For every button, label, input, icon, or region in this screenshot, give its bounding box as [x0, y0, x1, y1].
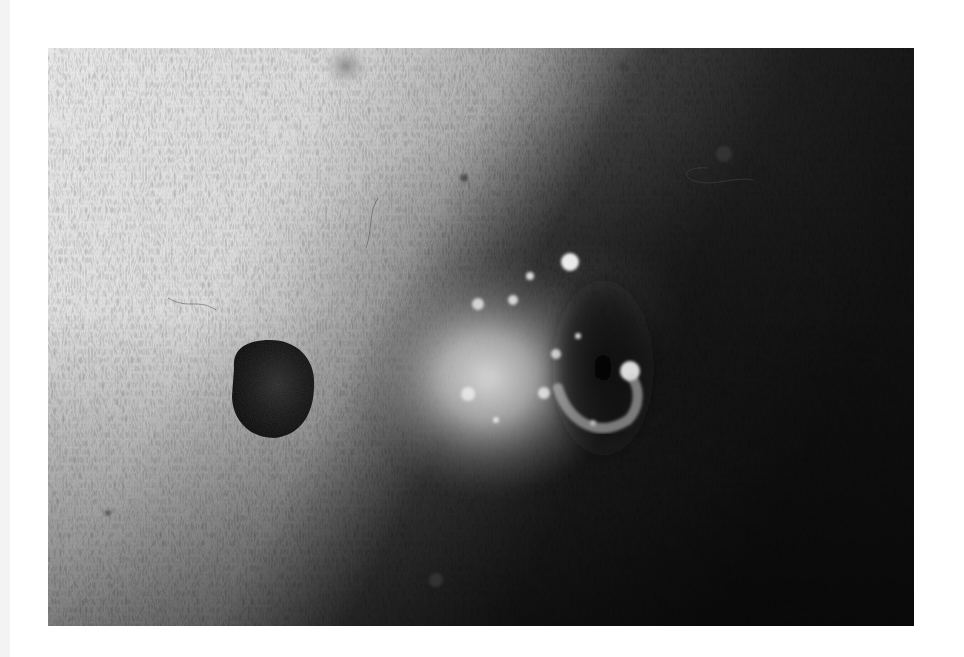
clinical-photograph	[48, 48, 914, 626]
glistening-erosion	[358, 253, 658, 498]
pigmented-nodule	[232, 340, 314, 438]
page	[0, 0, 964, 657]
photograph-canvas	[48, 48, 914, 626]
left-edge-strip	[0, 0, 10, 657]
